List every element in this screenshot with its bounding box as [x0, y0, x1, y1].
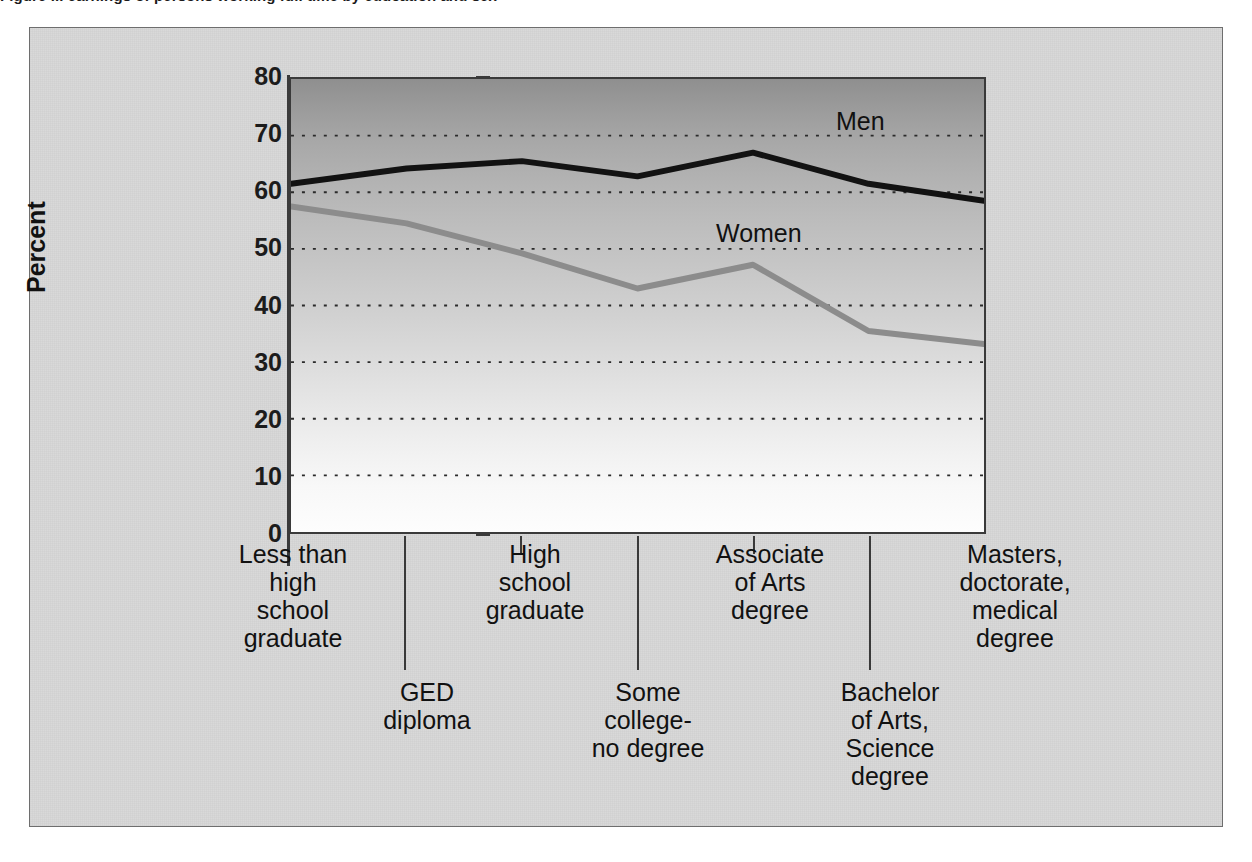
x-label-associate-of-arts-degree: Associate of Arts degree: [680, 540, 860, 624]
y-axis-ticks: 80706050403020100: [226, 28, 282, 826]
chart-plot-svg: [291, 79, 984, 532]
x-tick-stem: [637, 536, 639, 670]
y-tick-label: 80: [236, 64, 282, 89]
y-tick-label: 10: [236, 464, 282, 489]
y-tick-label: 30: [236, 350, 282, 375]
x-label-high-school-graduate: High school graduate: [450, 540, 620, 624]
x-label-masters-doctorate-medical-degree: Masters, doctorate, medical degree: [920, 540, 1110, 652]
x-label-ged-diploma: GED diploma: [352, 678, 502, 734]
y-tick-label: 20: [236, 407, 282, 432]
figure-title: Figure ... earnings of persons working f…: [0, 0, 1252, 7]
y-tick-label: 40: [236, 293, 282, 318]
x-label-some-college-no-degree: Some college- no degree: [558, 678, 738, 762]
series-lines: [291, 153, 984, 344]
plot-area: Men Women: [289, 77, 986, 534]
series-label-men: Men: [836, 107, 885, 136]
x-tick-stem: [869, 536, 871, 670]
y-tick-label: 60: [236, 178, 282, 203]
x-label-less-than-high-school: Less than high school graduate: [218, 540, 368, 652]
figure-panel: Percent 80706050403020100 Men Women Less…: [29, 27, 1223, 827]
series-label-women: Women: [716, 219, 802, 248]
y-axis-title: Percent: [22, 201, 51, 293]
x-label-bachelor-of-arts-science-degree: Bachelor of Arts, Science degree: [800, 678, 980, 790]
x-tick-stem: [404, 536, 406, 670]
y-tick-label: 70: [236, 121, 282, 146]
y-tick-label: 50: [236, 235, 282, 260]
series-line-men: [291, 153, 984, 201]
series-line-women: [291, 206, 984, 344]
